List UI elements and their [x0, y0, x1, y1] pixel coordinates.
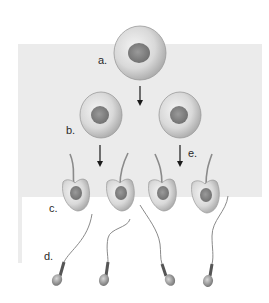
sperm-1	[50, 214, 92, 288]
spermatogenesis-diagram	[0, 0, 269, 303]
arrow-down-icon	[177, 145, 183, 167]
cell-b-right	[159, 92, 201, 138]
cell-c-1	[63, 154, 90, 211]
cell-c-3	[149, 154, 177, 211]
cell-c-4	[192, 154, 220, 213]
sperm-2	[98, 219, 130, 287]
label-c: c.	[49, 202, 58, 214]
cell-b-left	[80, 92, 122, 138]
cell-c-2	[107, 153, 135, 211]
label-d: d.	[44, 250, 53, 262]
sperm-3	[140, 205, 177, 288]
arrow-down-icon	[137, 86, 143, 106]
label-a: a.	[98, 54, 107, 66]
label-b: b.	[66, 124, 75, 136]
cell-a	[114, 26, 166, 80]
label-e: e.	[188, 147, 197, 159]
arrow-down-icon	[97, 145, 103, 167]
